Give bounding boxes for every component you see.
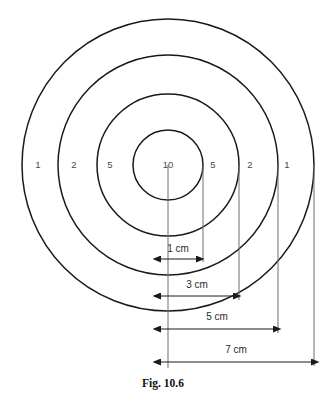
figure-caption: Fig. 10.6 [142, 377, 184, 390]
ring-label-right-1: 1 [284, 159, 289, 170]
ring-label-right-5: 5 [210, 159, 215, 170]
dimension-label-7cm: 7 cm [225, 344, 247, 355]
ring-label-right-2: 2 [247, 159, 252, 170]
figure-container: 1 2 5 10 5 2 1 1 cm 3 cm [0, 0, 321, 404]
ring-label-left-2: 2 [71, 159, 76, 170]
ring-label-left-5: 5 [107, 159, 112, 170]
dimension-label-1cm: 1 cm [167, 243, 189, 254]
dimension-label-3cm: 3 cm [186, 279, 208, 290]
ring-label-left-1: 1 [35, 159, 40, 170]
figure-background [0, 0, 321, 404]
dimension-label-5cm: 5 cm [206, 311, 228, 322]
concentric-target-figure: 1 2 5 10 5 2 1 1 cm 3 cm [0, 0, 321, 404]
